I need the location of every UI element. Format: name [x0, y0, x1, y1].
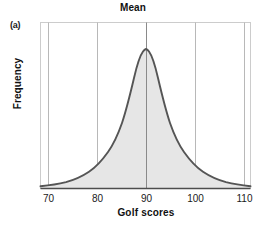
x-tick-label-90: 90: [141, 193, 153, 204]
x-tick-label-110: 110: [237, 193, 253, 204]
figure-panel-a: Mean (a) Frequency Golf scores 70 80 90 …: [0, 0, 266, 229]
x-tick-label-80: 80: [92, 193, 104, 204]
plot-area: 70 80 90 100 110: [0, 0, 266, 229]
x-tick-label-100: 100: [187, 193, 204, 204]
x-tick-label-70: 70: [43, 193, 55, 204]
